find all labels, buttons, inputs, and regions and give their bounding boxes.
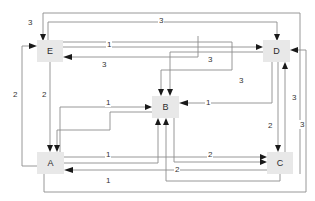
edge-e-b-arrowhead — [158, 89, 164, 96]
edge-b-c-arrowhead — [260, 159, 267, 165]
node-B[interactable]: B — [152, 96, 179, 118]
edge-d-b-mid-path — [188, 62, 272, 103]
edge-weight-a-b: 1 — [105, 98, 111, 107]
node-D[interactable]: D — [263, 40, 290, 62]
edge-weight-e-d-mid: 1 — [106, 40, 112, 49]
edge-a-b-path — [60, 107, 147, 152]
edge-c-b-arrowhead — [163, 118, 169, 125]
node-E[interactable]: E — [37, 40, 63, 62]
node-D-label: D — [273, 46, 280, 56]
edge-weight-a-c: 1 — [105, 150, 111, 159]
edge-weight-c-e: 3 — [27, 18, 33, 27]
edge-a-b-arrowhead — [145, 104, 152, 110]
edge-weight-c-b: 2 — [174, 165, 180, 174]
edge-e-a-arrowhead — [47, 145, 53, 152]
edge-d-e-path — [72, 36, 198, 57]
edge-weight-e-a: 2 — [41, 90, 47, 99]
edge-a-d-arrowhead — [290, 47, 298, 53]
edge-weight-a-e: 2 — [12, 90, 18, 99]
edge-weight-c-d: 3 — [291, 93, 297, 102]
edge-b-a-arrowhead — [54, 145, 60, 152]
edge-weight-d-b-mid: 1 — [205, 98, 211, 107]
edge-d-b-top-arrowhead — [167, 89, 173, 96]
edge-e-b-path — [63, 42, 232, 91]
edge-b-a-path — [57, 112, 152, 147]
edge-weight-d-b-top: 3 — [238, 76, 244, 85]
edge-d-b-mid-arrowhead — [179, 100, 188, 106]
graph-diagram: E D B A C 3 3 1 3 2 2 3 3 1 1 2 3 3 1 2 … — [0, 0, 315, 201]
edge-weight-a-d: 3 — [299, 120, 305, 129]
edge-weight-d-e: 3 — [101, 60, 107, 69]
edge-d-c-arrowhead — [275, 145, 281, 152]
edge-c-e-path — [43, 13, 300, 174]
edge-c-a-arrowhead — [64, 167, 73, 173]
edge-a-e-path — [22, 46, 37, 166]
node-A-label: A — [47, 158, 53, 168]
edge-d-e-arrowhead — [63, 54, 72, 60]
edge-weight-d-c: 2 — [267, 121, 273, 130]
edge-weight-e-b: 3 — [207, 55, 213, 64]
edge-c-b-path — [166, 123, 280, 181]
edge-a-e-arrowhead — [29, 43, 37, 49]
node-E-label: E — [47, 46, 53, 56]
node-C[interactable]: C — [267, 152, 293, 174]
edge-a-c-arrowhead — [260, 154, 267, 160]
edge-a-b-alt-arrowhead — [155, 118, 161, 125]
edge-weight-b-c: 2 — [207, 150, 213, 159]
edge-b-c-path — [174, 118, 262, 162]
node-C-label: C — [277, 158, 284, 168]
node-B-label: B — [162, 102, 168, 112]
node-A[interactable]: A — [37, 152, 64, 174]
edge-weight-c-a: 1 — [105, 176, 111, 185]
edge-weight-e-d-top: 3 — [158, 16, 164, 25]
edge-c-d-arrowhead — [282, 62, 288, 69]
edge-e-d-mid-arrowhead — [256, 44, 263, 50]
edge-d-b-top-path — [170, 52, 263, 91]
